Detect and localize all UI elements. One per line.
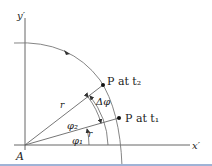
origin-label: A bbox=[15, 150, 24, 163]
arc-direction-arrow-icon bbox=[64, 50, 70, 55]
x-axis-label: x′ bbox=[192, 140, 201, 151]
delta-phi-label: Δφ bbox=[95, 96, 110, 107]
phi2-label: φ₂ bbox=[67, 120, 78, 131]
radius-label-lower: r bbox=[88, 129, 93, 139]
point-label-t2: P at t₂ bbox=[107, 75, 141, 88]
y-axis-label: y′ bbox=[16, 10, 26, 21]
point-p-t1 bbox=[117, 116, 121, 120]
phi1-label: φ₁ bbox=[72, 135, 83, 146]
diagram-svg: y′ A x′ P at t₂ P at t₁ r r φ₂ φ₁ Δφ bbox=[0, 0, 212, 166]
diagram-figure: y′ A x′ P at t₂ P at t₁ r r φ₂ φ₁ Δφ bbox=[0, 0, 212, 166]
point-p-t2 bbox=[101, 83, 105, 87]
point-label-t1: P at t₁ bbox=[125, 112, 159, 125]
radius-label-upper: r bbox=[60, 100, 65, 110]
bottom-strip bbox=[0, 164, 212, 166]
